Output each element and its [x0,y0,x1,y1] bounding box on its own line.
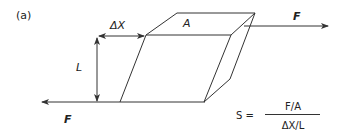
top-face [146,13,255,35]
formula-numerator: F/A [266,101,320,112]
shear-modulus-formula: S = F/A ΔX/L [236,100,326,134]
formula-denominator: ΔX/L [266,120,320,131]
front-right-edge [204,35,231,102]
formula-lhs: S = [236,110,254,121]
force-top-label: F [293,11,301,22]
force-bottom-label: F [64,114,72,125]
front-left-edge [120,35,146,102]
fraction-bar [265,114,320,115]
delta-x-label: ΔX [110,20,125,31]
length-label: L [76,62,82,73]
panel-label: (a) [16,10,31,21]
area-label: A [183,18,191,29]
